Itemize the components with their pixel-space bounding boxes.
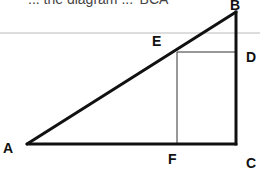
- label-B: B: [230, 0, 240, 12]
- geometry-figure: ... the diagram ... 'BCA' A B C D E F: [0, 0, 260, 171]
- label-F: F: [168, 152, 177, 166]
- label-A: A: [3, 141, 13, 155]
- label-E: E: [152, 34, 161, 48]
- triangle-diagram: [0, 0, 260, 171]
- segment-AB: [27, 12, 236, 144]
- label-D: D: [246, 50, 256, 64]
- label-C: C: [246, 156, 256, 170]
